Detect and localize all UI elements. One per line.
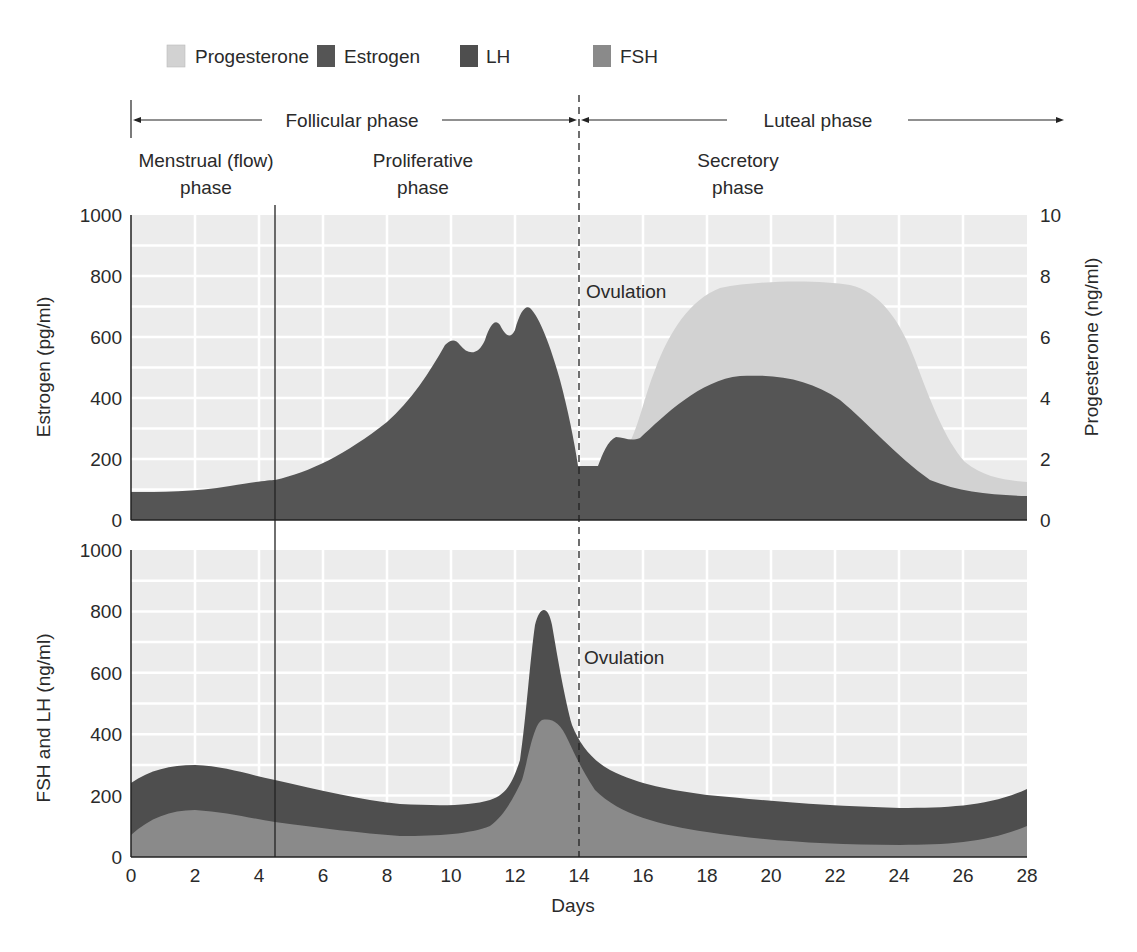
svg-text:600: 600 [90,327,122,348]
legend-item-progesterone: Progesterone [167,45,309,67]
svg-text:28: 28 [1016,865,1037,886]
legend-item-estrogen: Estrogen [317,45,420,67]
ovulation-label-lower: Ovulation [584,647,664,668]
svg-text:200: 200 [90,786,122,807]
svg-text:1000: 1000 [80,540,122,561]
menstrual-phase-label-1: Menstrual (flow) [138,150,273,171]
svg-text:0: 0 [111,847,122,868]
luteal-phase-label: Luteal phase [764,110,873,131]
lower-left-ticks: 1000 800 600 400 200 0 [80,540,122,868]
lh-swatch [460,45,478,67]
svg-text:8: 8 [1040,266,1051,287]
legend-label-progesterone: Progesterone [195,46,309,67]
svg-text:600: 600 [90,663,122,684]
svg-text:800: 800 [90,266,122,287]
svg-text:2: 2 [190,865,201,886]
svg-text:26: 26 [952,865,973,886]
svg-text:2: 2 [1040,449,1051,470]
upper-left-ticks: 1000 800 600 400 200 0 [80,205,122,531]
svg-text:4: 4 [1040,388,1051,409]
svg-text:14: 14 [568,865,590,886]
proliferative-phase-label-2: phase [397,177,449,198]
svg-text:10: 10 [1040,205,1061,226]
arrowhead-left-icon [581,117,589,123]
follicular-phase-label: Follicular phase [285,110,418,131]
estrogen-swatch [317,45,335,67]
svg-text:0: 0 [126,865,137,886]
x-axis-label: Days [551,895,594,916]
hormone-cycle-chart: Progesterone Estrogen LH FSH Follicular … [0,0,1137,952]
svg-text:400: 400 [90,388,122,409]
svg-text:22: 22 [824,865,845,886]
legend: Progesterone Estrogen LH FSH [167,45,658,67]
fsh-swatch [593,45,611,67]
svg-text:4: 4 [254,865,265,886]
svg-text:400: 400 [90,724,122,745]
arrowhead-right-icon [1056,117,1064,123]
svg-text:8: 8 [382,865,393,886]
svg-text:24: 24 [888,865,910,886]
svg-text:18: 18 [696,865,717,886]
legend-item-fsh: FSH [593,45,658,67]
svg-text:6: 6 [318,865,329,886]
secretory-phase-label-2: phase [712,177,764,198]
x-axis-ticks: 0 2 4 6 8 10 12 14 16 18 20 22 24 26 28 [126,865,1038,886]
upper-plot: Ovulation [131,215,1027,520]
upper-right-ticks: 10 8 6 4 2 0 [1040,205,1061,531]
svg-text:10: 10 [440,865,461,886]
upper-left-axis-label: Estrogen (pg/ml) [33,297,54,437]
svg-text:1000: 1000 [80,205,122,226]
svg-text:16: 16 [632,865,653,886]
phase-banner [131,100,1064,138]
arrowhead-right-icon [569,117,577,123]
upper-right-axis-label: Progesterone (ng/ml) [1081,258,1102,436]
svg-text:0: 0 [111,510,122,531]
progesterone-swatch [167,45,185,67]
proliferative-phase-label-1: Proliferative [373,150,473,171]
ovulation-label-upper: Ovulation [586,281,666,302]
svg-text:0: 0 [1040,510,1051,531]
lower-left-axis-label: FSH and LH (ng/ml) [33,634,54,803]
svg-text:200: 200 [90,449,122,470]
menstrual-phase-label-2: phase [180,177,232,198]
lower-plot: Ovulation [131,550,1027,857]
legend-label-estrogen: Estrogen [344,46,420,67]
svg-text:800: 800 [90,601,122,622]
svg-text:6: 6 [1040,327,1051,348]
secretory-phase-label-1: Secretory [697,150,779,171]
svg-text:20: 20 [760,865,781,886]
legend-label-lh: LH [486,46,510,67]
legend-label-fsh: FSH [620,46,658,67]
legend-item-lh: LH [460,45,510,67]
arrowhead-left-icon [133,117,141,123]
svg-text:12: 12 [504,865,525,886]
